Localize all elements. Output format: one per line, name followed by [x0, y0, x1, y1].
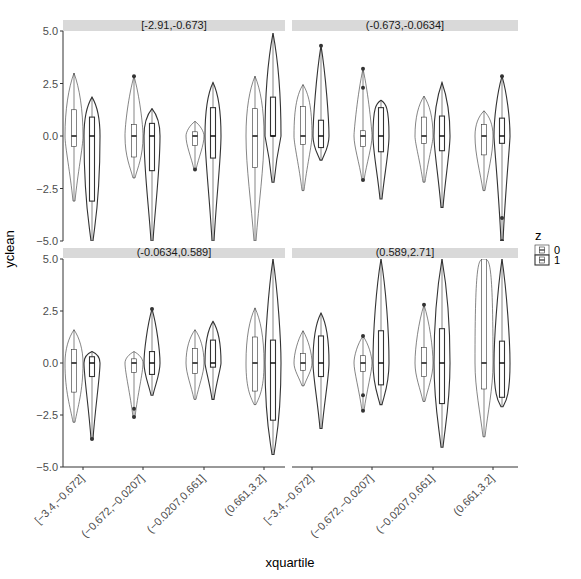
boxplot-box: [90, 357, 95, 377]
outlier-point: [319, 44, 323, 48]
outlier-point: [361, 86, 365, 90]
y-tick-label: 5.0: [43, 253, 58, 265]
legend-label: 1: [554, 254, 560, 266]
x-tick-label: [−3.4,−0.672]: [261, 472, 315, 526]
facet-panel: (0.589,2.71][−3.4,−0.672](−0.672,−0.0207…: [261, 246, 518, 540]
x-tick-label: (−0.0207,0.661]: [144, 472, 207, 535]
facet-strip-label: [-2.91,-0.673]: [141, 19, 206, 31]
boxplot-box: [132, 359, 137, 373]
boxplot-box: [150, 123, 155, 170]
facet-panel: (-0.673,-0.0634]: [292, 19, 518, 243]
x-tick-label: (0.661,3.2]: [451, 472, 497, 518]
faceted-violin-chart: [-2.91,-0.673]5.02.50.0−2.5−5.0(-0.673,-…: [0, 0, 581, 579]
y-axis-title: yclean: [2, 230, 17, 268]
boxplot-box: [422, 117, 427, 143]
y-tick-label: −5.0: [36, 235, 58, 247]
x-axis-title: xquartile: [265, 555, 314, 570]
boxplot-box: [379, 331, 384, 385]
boxplot-box: [301, 354, 306, 371]
y-tick-label: 0.0: [43, 357, 58, 369]
boxplot-box: [440, 329, 445, 404]
y-tick-label: −2.5: [36, 409, 58, 421]
outlier-point: [361, 67, 365, 71]
y-tick-label: −2.5: [36, 183, 58, 195]
boxplot-box: [193, 132, 198, 146]
outlier-point: [90, 437, 94, 441]
x-tick-label: [−3.4,−0.672]: [32, 472, 86, 526]
boxplot-box: [422, 347, 427, 376]
x-tick-label: (−0.672,−0.0207]: [308, 472, 376, 540]
y-tick-label: 0.0: [43, 130, 58, 142]
outlier-point: [500, 239, 504, 243]
legend-key-z1: [535, 255, 549, 265]
outlier-point: [422, 303, 426, 307]
boxplot-box: [271, 97, 276, 136]
outlier-point: [150, 307, 154, 311]
boxplot-box: [132, 124, 137, 157]
boxplot-box: [271, 340, 276, 420]
boxplot-box: [301, 107, 306, 145]
facet-strip-label: (-0.673,-0.0634]: [366, 19, 444, 31]
boxplot-box: [500, 118, 505, 143]
boxplot-box: [482, 124, 487, 154]
boxplot-box: [500, 341, 505, 397]
outlier-point: [132, 407, 136, 411]
y-tick-label: 2.5: [43, 305, 58, 317]
x-tick-label: (−0.672,−0.0207]: [79, 472, 147, 540]
y-tick-label: 5.0: [43, 25, 58, 37]
outlier-point: [361, 409, 365, 413]
outlier-point: [500, 216, 504, 220]
x-tick-label: (−0.0207,0.661]: [373, 472, 436, 535]
boxplot-box: [379, 108, 384, 152]
boxplot-box: [319, 336, 324, 377]
boxplot-box: [253, 337, 258, 391]
outlier-point: [132, 74, 136, 78]
boxplot-box: [193, 348, 198, 373]
facet-panel: (-0.0634,0.589]5.02.50.0−2.5−5.0[−3.4,−0…: [32, 246, 285, 540]
facet-panel: [-2.91,-0.673]5.02.50.0−2.5−5.0: [36, 19, 285, 247]
boxplot-box: [72, 349, 77, 392]
legend-key-z0: [535, 245, 549, 255]
legend: z01: [535, 228, 560, 266]
boxplot-box: [90, 117, 95, 201]
boxplot-box: [211, 108, 216, 158]
boxplot-box: [72, 110, 77, 147]
boxplot-box: [482, 259, 487, 389]
legend-title: z: [535, 228, 542, 243]
outlier-point: [361, 178, 365, 182]
y-tick-label: 2.5: [43, 78, 58, 90]
plot-area: [294, 259, 510, 447]
plot-area: [65, 33, 281, 241]
plot-area: [294, 44, 510, 243]
x-tick-label: (0.661,3.2]: [222, 472, 268, 518]
outlier-point: [132, 415, 136, 419]
outlier-point: [361, 334, 365, 338]
boxplot-box: [440, 116, 445, 151]
facet-strip-label: (-0.0634,0.589]: [137, 246, 212, 258]
facet-strip-label: (0.589,2.71]: [376, 246, 435, 258]
outlier-point: [500, 74, 504, 78]
boxplot-box: [361, 131, 366, 147]
outlier-point: [193, 168, 197, 172]
outlier-point: [361, 393, 365, 397]
plot-area: [65, 259, 281, 455]
y-tick-label: −5.0: [36, 461, 58, 473]
boxplot-box: [319, 120, 324, 147]
boxplot-box: [253, 109, 258, 168]
